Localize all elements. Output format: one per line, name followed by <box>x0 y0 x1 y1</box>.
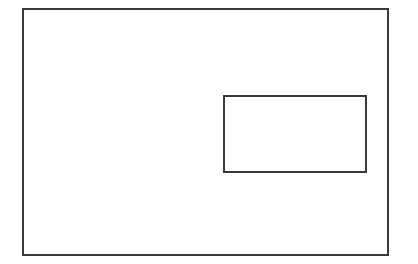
inner-rectangle <box>223 95 367 173</box>
